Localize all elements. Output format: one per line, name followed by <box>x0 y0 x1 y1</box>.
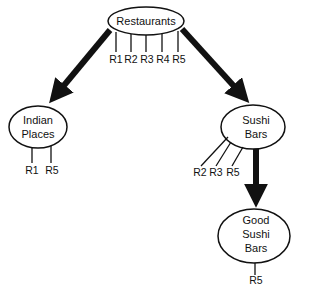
node-label: Places <box>21 128 55 140</box>
item-label: R3 <box>140 53 154 65</box>
item-label: R1 <box>109 53 123 65</box>
node-label: Good <box>243 214 270 226</box>
node-label: Restaurants <box>116 15 176 27</box>
item-label: R5 <box>172 53 186 65</box>
item-label: R5 <box>226 166 240 178</box>
node-restaurants: Restaurants <box>108 7 184 35</box>
edge-restaurants-to-sushi <box>182 29 242 95</box>
item-label: R4 <box>156 53 170 65</box>
edge-restaurants-to-indian <box>56 30 110 95</box>
item-label: R5 <box>45 164 59 176</box>
item-label: R5 <box>249 274 263 285</box>
node-label: Sushi <box>242 228 270 240</box>
tree-diagram: Restaurants R1 R2 R3 R4 R5 Indian Places… <box>0 0 312 285</box>
node-good-sushi-bars: Good Sushi Bars <box>218 209 290 263</box>
item-label: R2 <box>124 53 138 65</box>
node-indian-places: Indian Places <box>9 106 67 148</box>
item-label: R3 <box>209 166 223 178</box>
node-label: Bars <box>245 242 268 254</box>
node-label: Bars <box>245 128 268 140</box>
node-label: Indian <box>23 114 53 126</box>
item-label: R1 <box>25 164 39 176</box>
node-label: Sushi <box>242 114 270 126</box>
item-label: R2 <box>193 166 207 178</box>
